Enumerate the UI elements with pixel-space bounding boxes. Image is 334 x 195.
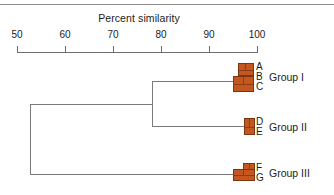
taxon-label-c: C	[256, 81, 263, 92]
cluster-block-ab	[238, 63, 254, 76]
cluster-block-fg	[233, 169, 255, 181]
taxon-label-g: G	[256, 172, 264, 183]
branch-group-2	[152, 126, 245, 127]
cluster-block-de	[244, 118, 255, 135]
root-node-connector	[30, 105, 31, 175]
tick-label-90: 90	[194, 29, 224, 40]
branch-group-3	[30, 174, 233, 175]
x-axis-line	[17, 52, 258, 53]
tick-mark-90	[209, 46, 210, 53]
tick-mark-50	[17, 46, 18, 53]
taxon-label-e: E	[256, 126, 263, 137]
tick-label-80: 80	[146, 29, 176, 40]
tick-mark-70	[113, 46, 114, 53]
root-to-inner-branch	[30, 104, 153, 105]
group-label-3: Group III	[269, 167, 310, 179]
group-label-2: Group II	[269, 121, 307, 133]
tick-label-50: 50	[2, 29, 32, 40]
cluster-block-abc	[233, 76, 254, 92]
tick-mark-100	[257, 46, 258, 53]
tick-mark-60	[65, 46, 66, 53]
inner-node-connector	[152, 81, 153, 127]
branch-group-1	[152, 81, 234, 82]
tick-label-100: 100	[242, 29, 272, 40]
dendrogram-figure: Percent similarity 50 60 70 80 90 100 A …	[0, 0, 334, 195]
tick-label-70: 70	[98, 29, 128, 40]
axis-title: Percent similarity	[0, 12, 278, 24]
tick-mark-80	[161, 46, 162, 53]
tick-label-60: 60	[50, 29, 80, 40]
top-divider	[0, 4, 334, 5]
group-label-1: Group I	[269, 71, 304, 83]
